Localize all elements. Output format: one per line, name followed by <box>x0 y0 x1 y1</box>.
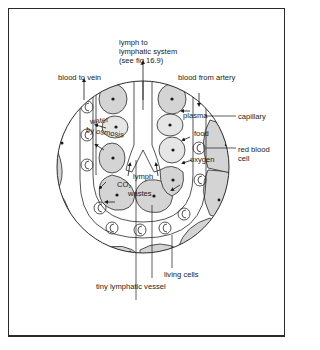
label-living-cells: living cells <box>164 270 199 279</box>
label-red-blood-cell: red blood cell <box>238 145 270 163</box>
label-wastes: wastes <box>128 189 152 198</box>
label-oxygen: oxygen <box>190 155 215 164</box>
label-co2: CO₂ <box>117 180 131 189</box>
label-capillary: capillary <box>238 112 266 121</box>
label-water: water <box>90 115 109 126</box>
label-plasma: plasma <box>183 111 207 120</box>
food-arrow <box>183 137 190 140</box>
label-food: food <box>194 129 209 138</box>
label-blood-from-artery: blood from artery <box>178 73 235 82</box>
label-lymph-to-system: lymph to lymphatic system (see fig 16.9) <box>119 38 177 65</box>
label-blood-to-vein: blood to vein <box>58 73 101 82</box>
label-tiny-lymphatic-vessel: tiny lymphatic vessel <box>96 282 166 291</box>
label-lymph: lymph <box>133 172 153 181</box>
